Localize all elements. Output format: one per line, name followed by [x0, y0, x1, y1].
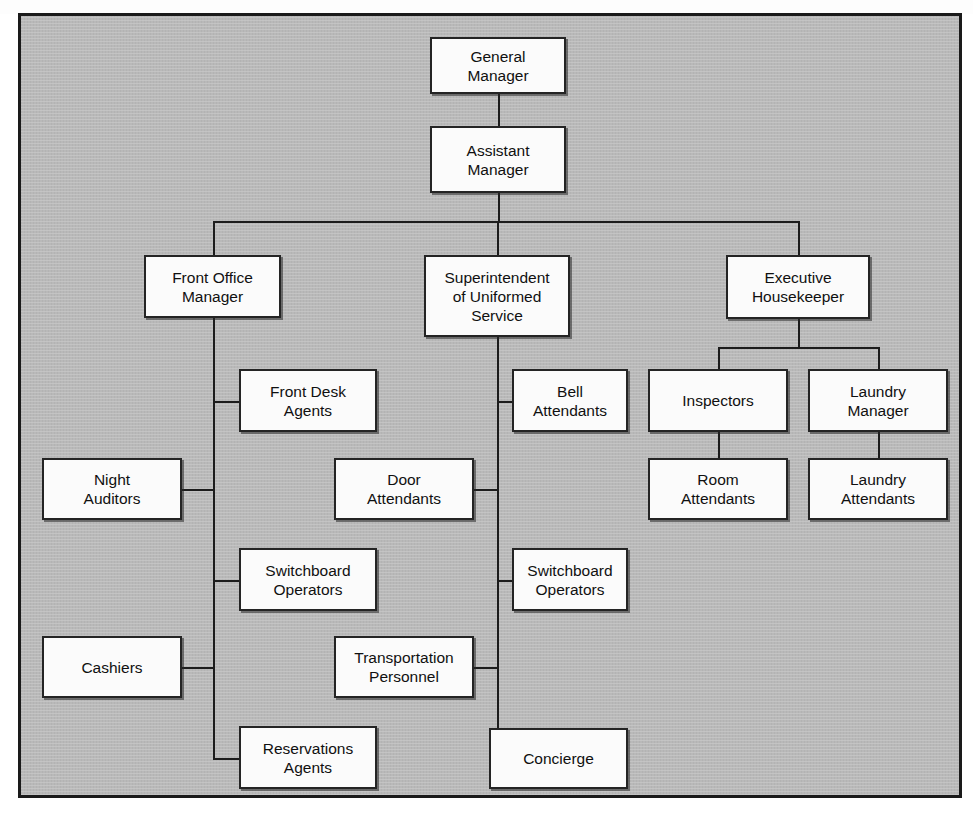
connector-fom-to-night-auditors	[182, 489, 213, 491]
org-node-label: Front Desk Agents	[266, 382, 350, 420]
connector-fom-spine	[213, 318, 215, 760]
org-node-label: Switchboard Operators	[523, 561, 616, 599]
org-node-label: Concierge	[519, 749, 598, 768]
connector-inspectors-to-room-attendants	[718, 432, 720, 458]
org-node-label: Transportation Personnel	[350, 648, 457, 686]
org-node-door-attendants: Door Attendants	[334, 458, 474, 520]
connector-bus-to-front-office-manager	[213, 221, 215, 255]
org-node-label: Inspectors	[678, 391, 758, 410]
connector-superintendent-to-transportation-personnel	[474, 667, 497, 669]
connector-laundry-manager-to-laundry-attendants	[878, 432, 880, 458]
connector-superintendent-to-door-attendants	[474, 489, 497, 491]
connector-fom-to-reservations-agents	[213, 758, 240, 760]
cropped-caption-strip	[20, 801, 580, 819]
connector-exh-to-inspectors	[718, 347, 720, 369]
connector-superintendent-to-switchboard-operators-su	[497, 580, 512, 582]
org-node-room-attendants: Room Attendants	[648, 458, 788, 520]
org-node-laundry-manager: Laundry Manager	[808, 369, 948, 432]
connector-fom-to-front-desk-agents	[213, 401, 240, 403]
org-node-label: Assistant Manager	[463, 141, 534, 179]
org-node-general-manager: General Manager	[430, 37, 566, 94]
org-node-label: Laundry Attendants	[837, 470, 919, 508]
org-node-label: Room Attendants	[677, 470, 759, 508]
org-node-front-desk-agents: Front Desk Agents	[239, 369, 377, 432]
org-node-label: Laundry Manager	[843, 382, 912, 420]
chart-plate: General ManagerAssistant ManagerFront Of…	[18, 13, 962, 798]
connector-superintendent-to-bell-attendants	[497, 401, 512, 403]
org-node-reservations-agents: Reservations Agents	[239, 726, 377, 789]
connector-fom-to-switchboard-operators-fo	[213, 580, 240, 582]
connector-exh-stem	[798, 319, 800, 347]
cropped-header-strip	[0, 0, 973, 14]
org-node-inspectors: Inspectors	[648, 369, 788, 432]
org-node-executive-housekeeper: Executive Housekeeper	[726, 255, 870, 319]
org-node-label: Switchboard Operators	[261, 561, 354, 599]
org-node-superintendent-uniformed: Superintendent of Uniformed Service	[424, 255, 570, 337]
connector-am-stem	[498, 193, 500, 221]
connector-level2-bus	[213, 221, 799, 223]
connector-gm-to-am	[498, 94, 500, 126]
org-node-transportation-personnel: Transportation Personnel	[334, 636, 474, 698]
org-node-label: General Manager	[463, 47, 532, 85]
connector-superintendent-spine	[497, 337, 499, 761]
org-node-cashiers: Cashiers	[42, 636, 182, 698]
connector-bus-to-executive-housekeeper	[798, 221, 800, 255]
org-node-assistant-manager: Assistant Manager	[430, 126, 566, 193]
org-chart-page: General ManagerAssistant ManagerFront Of…	[0, 0, 973, 819]
org-node-switchboard-operators-fo: Switchboard Operators	[239, 548, 377, 611]
org-node-label: Superintendent of Uniformed Service	[440, 268, 553, 325]
org-node-label: Door Attendants	[363, 470, 445, 508]
connector-fom-to-cashiers	[182, 667, 213, 669]
org-node-bell-attendants: Bell Attendants	[512, 369, 628, 432]
org-node-concierge: Concierge	[489, 728, 628, 789]
org-node-label: Executive Housekeeper	[748, 268, 848, 306]
org-node-label: Front Office Manager	[168, 268, 257, 306]
org-node-label: Reservations Agents	[259, 739, 357, 777]
org-node-front-office-manager: Front Office Manager	[144, 255, 281, 318]
connector-exh-to-laundry-manager	[878, 347, 880, 369]
connector-bus-to-superintendent	[497, 221, 499, 255]
org-node-label: Bell Attendants	[529, 382, 611, 420]
connector-exh-bus	[718, 347, 878, 349]
org-node-label: Cashiers	[77, 658, 146, 677]
org-node-night-auditors: Night Auditors	[42, 458, 182, 520]
org-node-label: Night Auditors	[80, 470, 145, 508]
org-node-switchboard-operators-su: Switchboard Operators	[512, 548, 628, 611]
org-node-laundry-attendants: Laundry Attendants	[808, 458, 948, 520]
